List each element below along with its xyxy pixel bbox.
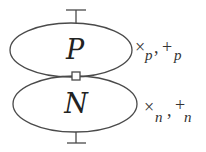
svg-text:p: p [173, 47, 182, 63]
top-terminal [66, 10, 86, 23]
n-operations-label: × n , + n [144, 95, 192, 125]
svg-text:n: n [155, 109, 163, 125]
p-operations-label: × p , + p [135, 37, 182, 63]
svg-text:p: p [144, 47, 153, 63]
svg-text:,: , [154, 37, 159, 57]
svg-text:+: + [162, 37, 172, 57]
n-region-label: N [63, 88, 89, 119]
junction-square [72, 72, 80, 80]
svg-text:n: n [184, 109, 192, 125]
bottom-terminal [67, 132, 86, 143]
p-region-label: P [65, 34, 85, 65]
svg-text:×: × [135, 37, 145, 57]
svg-text:×: × [144, 97, 154, 117]
svg-text:,: , [167, 100, 172, 120]
pn-diagram: P N × p , + p × n , + n [0, 0, 206, 152]
